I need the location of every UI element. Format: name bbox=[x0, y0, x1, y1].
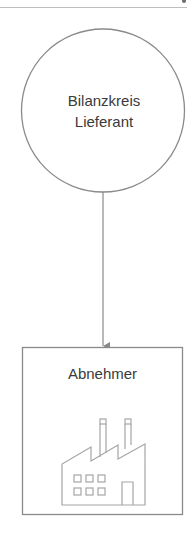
flow-diagram bbox=[0, 0, 192, 536]
target-node-label-text: Abnehmer bbox=[22, 363, 183, 384]
source-node-label-line-1: Bilanzkreis bbox=[22, 90, 186, 111]
target-node-label: Abnehmer bbox=[22, 363, 183, 384]
source-node-label: Bilanzkreis Lieferant bbox=[22, 90, 186, 132]
source-node-label-line-2: Lieferant bbox=[22, 111, 186, 132]
